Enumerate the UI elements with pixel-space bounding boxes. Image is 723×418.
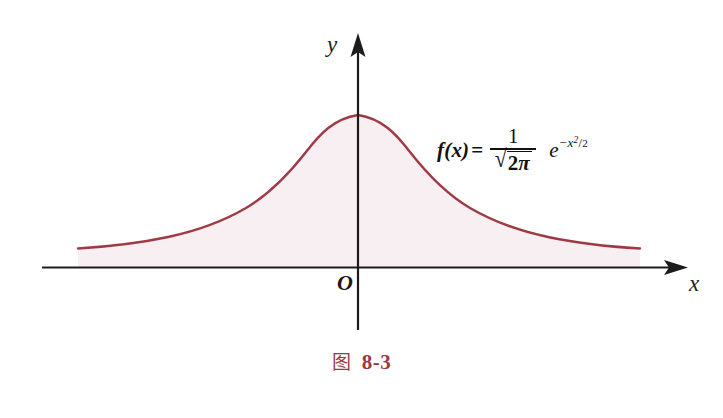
formula-fraction: 1 √ 2π xyxy=(490,125,536,175)
radical-sign-icon: √ xyxy=(495,147,507,175)
exponent-variable: x xyxy=(568,135,574,150)
formula-denominator: √ 2π xyxy=(493,150,534,175)
radical-number: 2 xyxy=(508,151,519,175)
density-function-formula: f(x) = 1 √ 2π e−x2/2 xyxy=(437,126,588,176)
formula-function-name: f(x) xyxy=(437,138,469,163)
figure-mark-character: 图 xyxy=(332,353,351,372)
formula-radical: √ 2π xyxy=(495,150,532,175)
figure-caption: 图 8-3 xyxy=(0,352,723,373)
figure-number: 8-3 xyxy=(362,352,392,373)
radical-contents: 2π xyxy=(507,151,532,175)
x-axis-label: x xyxy=(689,272,699,295)
exponent-divisor: 2 xyxy=(582,137,588,149)
figure-container: y x O f(x) = 1 √ 2π e−x2/2 图 8-3 xyxy=(0,0,723,418)
exponent-power: 2 xyxy=(574,135,579,145)
formula-equals-sign: = xyxy=(471,138,483,163)
y-axis-label: y xyxy=(327,33,337,56)
radical-pi-symbol: π xyxy=(518,151,529,175)
formula-exponent: −x2/2 xyxy=(559,135,588,151)
exponent-minus-sign: − xyxy=(559,135,568,150)
formula-numerator: 1 xyxy=(505,125,522,147)
origin-label: O xyxy=(337,272,353,294)
formula-exponential-base: e xyxy=(549,138,558,163)
